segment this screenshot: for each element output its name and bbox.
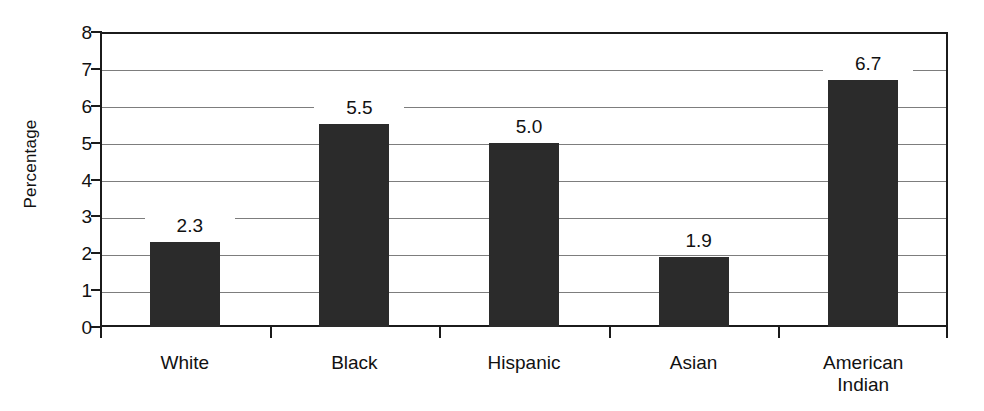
x-axis-tick-mark <box>778 327 780 338</box>
gridline <box>102 255 946 256</box>
y-axis-tick-mark <box>91 252 102 254</box>
x-axis-tick-mark <box>270 327 272 338</box>
x-axis-tick-mark <box>100 327 102 338</box>
y-axis-tick-mark <box>91 289 102 291</box>
gridline <box>102 292 946 293</box>
y-axis-tick-label: 0 <box>58 318 92 337</box>
bar-value-label: 2.3 <box>145 216 235 235</box>
y-axis-tick-label: 8 <box>58 23 92 42</box>
x-axis-category-label: Asian <box>609 352 779 374</box>
x-axis-tick-mark <box>609 327 611 338</box>
gridline <box>102 144 946 145</box>
bar-chart: Percentage 012345678 2.3White5.5Black5.0… <box>0 0 984 411</box>
x-axis-tick-mark <box>946 327 948 338</box>
y-axis-tick-mark <box>91 68 102 70</box>
y-axis-tick-mark <box>91 179 102 181</box>
x-axis-category-label: American Indian <box>778 352 948 397</box>
x-axis-category-label: Hispanic <box>439 352 609 374</box>
y-axis-tick-mark <box>91 326 102 328</box>
x-axis-category-label: Black <box>269 352 439 374</box>
bar-value-label: 1.9 <box>654 231 744 250</box>
bar-value-label: 6.7 <box>823 54 913 73</box>
y-axis-tick-label: 3 <box>58 207 92 226</box>
x-axis-category-label: White <box>100 352 270 374</box>
gridline <box>102 70 946 71</box>
y-axis-tick-label: 1 <box>58 281 92 300</box>
gridline <box>102 107 946 108</box>
y-axis-tick-mark <box>91 105 102 107</box>
y-axis-tick-label: 7 <box>58 60 92 79</box>
y-axis-tick-labels: 012345678 <box>56 0 92 411</box>
y-axis-tick-mark <box>91 31 102 33</box>
y-axis-tick-label: 2 <box>58 244 92 263</box>
y-axis-title-text: Percentage <box>21 119 41 208</box>
x-axis-tick-mark <box>439 327 441 338</box>
y-axis-tick-label: 6 <box>58 97 92 116</box>
plot-area <box>100 32 948 327</box>
gridline <box>102 181 946 182</box>
bar-value-label: 5.5 <box>314 98 404 117</box>
y-axis-title: Percentage <box>14 0 48 327</box>
y-axis-tick-mark <box>91 142 102 144</box>
bar-value-label: 5.0 <box>484 117 574 136</box>
y-axis-tick-mark <box>91 215 102 217</box>
y-axis-tick-label: 5 <box>58 134 92 153</box>
y-axis-tick-label: 4 <box>58 171 92 190</box>
